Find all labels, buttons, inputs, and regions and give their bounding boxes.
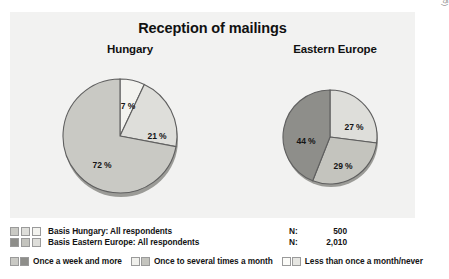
swatch-eastern-once-a-week	[10, 238, 19, 247]
pie-hungary-label-21: 21 %	[148, 131, 167, 141]
swatch-hungary-tone	[282, 257, 291, 266]
swatch-pair-once-to-several	[131, 257, 150, 266]
legend-basis-row-eastern-europe: Basis Eastern Europe: All respondents	[10, 237, 199, 247]
legend: Basis Hungary: All respondents N: 500 Ba…	[10, 226, 438, 276]
legend-category-label-less-than-once: Less than once a month/never	[305, 256, 423, 266]
pie-eastern-slice-27	[330, 90, 377, 143]
swatch-hungary-less-than-once	[32, 227, 41, 236]
swatch-eastern-tone	[141, 257, 150, 266]
legend-n-key-hungary: N:	[289, 226, 298, 236]
pie-hungary-label-7: 7 %	[121, 101, 135, 111]
swatch-hungary-tone	[10, 257, 19, 266]
swatch-hungary-tone	[131, 257, 140, 266]
legend-basis-row-hungary: Basis Hungary: All respondents	[10, 226, 172, 236]
legend-category-once-to-several: Once to several times a month	[131, 256, 273, 266]
source-holder: (Source: TNS Infratest/IMRSC, 2005)	[431, 2, 443, 142]
swatch-hungary-once-to-several	[21, 227, 30, 236]
page-title: Reception of mailings	[10, 20, 415, 36]
legend-category-once-a-week: Once a week and more	[10, 256, 122, 266]
source-note: (Source: TNS Infratest/IMRSC, 2005)	[442, 0, 449, 6]
legend-category-row: Once a week and more Once to several tim…	[10, 255, 432, 267]
swatch-pair-once-a-week	[10, 257, 29, 266]
subtitle-eastern-europe: Eastern Europe	[255, 43, 415, 55]
pie-hungary-svg	[62, 74, 192, 204]
pie-chart-hungary: 7 % 21 % 72 %	[62, 74, 192, 204]
swatch-eastern-less-than-once	[32, 238, 41, 247]
swatch-eastern-tone	[20, 257, 29, 266]
pie-eastern-label-29: 29 %	[334, 161, 353, 171]
legend-basis-label-hungary: Basis Hungary: All respondents	[48, 226, 172, 236]
swatch-hungary-once-a-week	[10, 227, 19, 236]
swatch-eastern-once-to-several	[21, 238, 30, 247]
swatch-pair-less-than-once	[282, 257, 301, 266]
legend-category-less-than-once: Less than once a month/never	[282, 256, 423, 266]
subtitle-hungary: Hungary	[50, 43, 210, 55]
legend-n-value-eastern-europe: 2,010	[313, 237, 347, 247]
pie-hungary-label-72: 72 %	[93, 160, 112, 170]
legend-n-key-eastern-europe: N:	[289, 237, 298, 247]
pie-chart-eastern-europe: 27 % 29 % 44 %	[282, 84, 392, 194]
legend-category-label-once-to-several: Once to several times a month	[154, 256, 273, 266]
pie-eastern-label-27: 27 %	[345, 122, 364, 132]
chart-panel: Reception of mailings Hungary Eastern Eu…	[10, 12, 415, 218]
swatch-eastern-tone	[292, 257, 301, 266]
legend-n-value-hungary: 500	[313, 226, 347, 236]
legend-category-label-once-a-week: Once a week and more	[33, 256, 122, 266]
pie-eastern-label-44: 44 %	[297, 136, 316, 146]
legend-basis-label-eastern-europe: Basis Eastern Europe: All respondents	[48, 237, 199, 247]
